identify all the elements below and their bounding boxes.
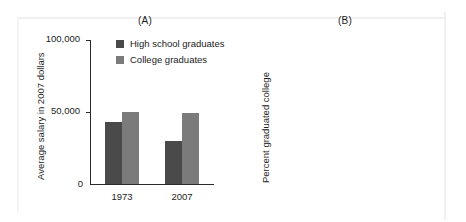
panel-a-x-axis xyxy=(90,184,214,185)
figure-container: (A) Average salary in 2007 dollars 100,0… xyxy=(0,0,466,222)
panel-b-title: (B) xyxy=(338,15,352,26)
panel-a-legend: High school graduates College graduates xyxy=(116,38,225,70)
bar-1973-high-school-graduates xyxy=(105,122,122,184)
legend-item-high-school-graduates: High school graduates xyxy=(116,38,225,49)
legend-swatch-icon-college-graduates xyxy=(116,56,124,64)
panel-a-title: (A) xyxy=(138,15,152,26)
panel-a-ytick-label-100000: 100,000 xyxy=(46,33,80,44)
legend-label-college-graduates: College graduates xyxy=(130,54,207,65)
bar-2007-high-school-graduates xyxy=(165,141,182,184)
panel-b: (B) Percent graduated college 100 0 SAT … xyxy=(240,0,466,222)
panel-a-ytick-50000: 50,000 xyxy=(86,112,91,113)
bar-1973-college-graduates xyxy=(122,112,139,184)
panel-a-ytick-0: 0 xyxy=(89,185,90,186)
legend-label-high-school-graduates: High school graduates xyxy=(130,38,225,49)
panel-a-ytick-100000: 100,000 xyxy=(86,40,91,41)
bar-2007-college-graduates xyxy=(182,113,199,184)
panel-a-ytick-label-50000: 50,000 xyxy=(51,105,80,116)
panel-a-y-axis-title: Average salary in 2007 dollars xyxy=(35,52,46,180)
panel-a-category-label-2007: 2007 xyxy=(171,191,192,202)
panel-a-ytick-label-0: 0 xyxy=(78,178,83,189)
panel-b-y-axis-title: Percent graduated college xyxy=(260,72,271,183)
legend-item-college-graduates: College graduates xyxy=(116,54,225,65)
panel-a: (A) Average salary in 2007 dollars 100,0… xyxy=(0,0,240,222)
legend-swatch-icon-high-school-graduates xyxy=(116,40,124,48)
panel-a-category-label-1973: 1973 xyxy=(111,191,132,202)
